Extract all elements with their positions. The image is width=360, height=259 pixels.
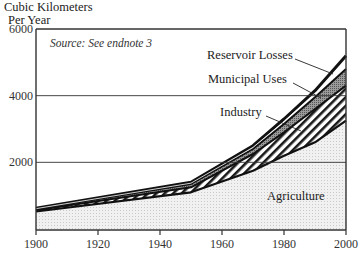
x-axis-ticks: 190019201940196019802000 [24, 230, 358, 251]
label-municipal-uses: Municipal Uses [208, 72, 287, 86]
label-industry: Industry [220, 105, 262, 119]
label-reservoir-losses: Reservoir Losses [207, 48, 293, 62]
y-tick-2000: 2000 [9, 155, 33, 169]
x-tick-1940: 1940 [148, 237, 172, 251]
x-tick-1900: 1900 [24, 237, 48, 251]
source-note: Source: See endnote 3 [50, 37, 152, 49]
stacked-areas [36, 56, 346, 229]
x-tick-1920: 1920 [86, 237, 110, 251]
y-tick-6000: 6000 [9, 22, 33, 36]
chart-canvas: 190019201940196019802000 200040006000 So… [0, 0, 360, 259]
y-tick-4000: 4000 [9, 89, 33, 103]
label-agriculture: Agriculture [267, 189, 325, 203]
y-axis-ticks: 200040006000 [9, 22, 33, 169]
x-tick-1960: 1960 [210, 237, 234, 251]
x-tick-2000: 2000 [334, 237, 358, 251]
x-tick-1980: 1980 [272, 237, 296, 251]
